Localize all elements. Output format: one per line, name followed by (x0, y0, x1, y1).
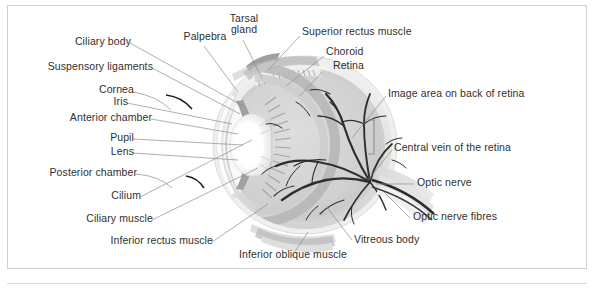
label-optic-nerve-fibres: Optic nerve fibres (413, 211, 497, 223)
label-palpebra: Palpebra (184, 31, 227, 43)
label-image-area-on-back-of-retina: Image area on back of retina (388, 88, 524, 100)
label-iris: Iris (114, 96, 128, 108)
label-choroid: Choroid (326, 46, 363, 58)
label-cilium: Cilium (111, 190, 141, 202)
label-optic-nerve: Optic nerve (417, 177, 472, 189)
label-tarsal-gland: Tarsal gland (222, 13, 266, 35)
label-lens: Lens (111, 146, 134, 158)
label-cornea: Cornea (99, 84, 134, 96)
label-anterior-chamber: Anterior chamber (70, 112, 152, 124)
caption-divider (7, 283, 587, 284)
label-ciliary-body: Ciliary body (75, 36, 131, 48)
label-posterior-chamber: Posterior chamber (50, 167, 137, 179)
eye-anatomy-figure: Ciliary body Palpebra Tarsal gland Super… (0, 0, 595, 293)
label-suspensory-ligaments: Suspensory ligaments (48, 61, 153, 73)
label-ciliary-muscle: Ciliary muscle (86, 213, 153, 225)
label-inferior-rectus-muscle: Inferior rectus muscle (110, 235, 213, 247)
label-pupil: Pupil (110, 132, 134, 144)
label-central-vein-of-the-retina: Central vein of the retina (394, 142, 511, 154)
label-retina: Retina (333, 60, 364, 72)
label-inferior-oblique-muscle: Inferior oblique muscle (239, 249, 347, 261)
figure-caption (9, 285, 259, 293)
label-vitreous-body: Vitreous body (354, 234, 419, 246)
label-superior-rectus-muscle: Superior rectus muscle (302, 26, 412, 38)
